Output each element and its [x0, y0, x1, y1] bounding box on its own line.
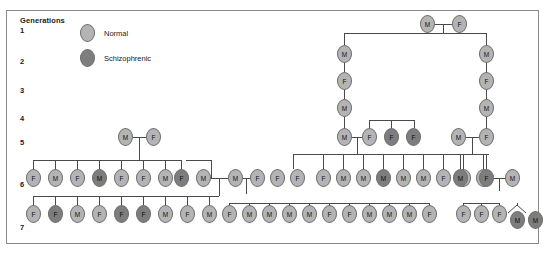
generation-label-7: 7 [20, 223, 24, 232]
person-g6-16[interactable]: M [356, 169, 371, 187]
person-g7-24[interactable]: M [510, 211, 525, 229]
drop-g7-7 [165, 196, 166, 205]
person-g5-8[interactable]: F [479, 128, 494, 146]
person-g6-3[interactable]: F [70, 169, 85, 187]
person-g2-2[interactable]: M [479, 45, 494, 63]
person-g3-2[interactable]: F [479, 72, 494, 90]
person-g3-1[interactable]: F [337, 72, 352, 90]
person-g7-9[interactable]: M [202, 205, 217, 223]
person-g5-1[interactable]: M [337, 128, 352, 146]
person-g5-5[interactable]: F [384, 128, 399, 146]
descent-g6-left-to-g7 [219, 178, 220, 196]
drop-g5-6 [414, 120, 415, 128]
person-g6-25[interactable]: M [505, 169, 520, 187]
person-g6-5[interactable]: F [114, 169, 129, 187]
person-g5-7[interactable]: M [451, 128, 466, 146]
drop-g5-2 [369, 120, 370, 128]
person-g6-13[interactable]: F [290, 169, 305, 187]
drop-g5-5 [391, 120, 392, 128]
person-g7-1[interactable]: F [26, 205, 41, 223]
person-g6-14[interactable]: F [316, 169, 331, 187]
person-g7-5[interactable]: F [114, 205, 129, 223]
person-g7-10[interactable]: F [222, 205, 237, 223]
person-g5-2[interactable]: F [362, 128, 377, 146]
sibship-line-g7-left [33, 196, 219, 197]
person-g6-1[interactable]: F [26, 169, 41, 187]
person-g7-8[interactable]: F [180, 205, 195, 223]
person-g1-1[interactable]: M [420, 15, 435, 33]
descent-g5-right [472, 137, 473, 154]
person-g6-20[interactable]: F [436, 169, 451, 187]
drop-g7-9 [209, 196, 210, 205]
person-g7-12[interactable]: M [262, 205, 277, 223]
person-g7-16[interactable]: F [342, 205, 357, 223]
person-g7-7[interactable]: M [158, 205, 173, 223]
sibship-line-g7-mid2 [389, 203, 429, 204]
person-g6-6[interactable]: F [136, 169, 151, 187]
link-g3-g4-left [344, 90, 345, 99]
person-g4-2[interactable]: M [479, 99, 494, 117]
person-g7-11[interactable]: M [242, 205, 257, 223]
person-g7-19[interactable]: M [402, 205, 417, 223]
person-g7-3[interactable]: M [70, 205, 85, 223]
person-g6-19[interactable]: M [416, 169, 431, 187]
link-g4-g5-right [486, 117, 487, 128]
drop-g6-13 [293, 154, 294, 169]
person-g7-17[interactable]: M [362, 205, 377, 223]
drop-g6-3 [77, 160, 78, 169]
person-g7-21[interactable]: F [456, 205, 471, 223]
person-g7-18[interactable]: M [382, 205, 397, 223]
drop-g6-20 [443, 154, 444, 169]
person-g6-4[interactable]: M [92, 169, 107, 187]
generation-label-2: 2 [20, 57, 24, 66]
person-g7-2[interactable]: F [48, 205, 63, 223]
person-g7-25[interactable]: M [528, 211, 543, 229]
generation-label-3: 3 [20, 86, 24, 95]
person-g5-6[interactable]: F [406, 128, 421, 146]
pedigree-chart-page: Generations 1 2 3 4 5 6 7 Normal Schizop… [0, 0, 547, 255]
drop-g6-21 [463, 154, 464, 169]
person-g5-3[interactable]: M [118, 128, 133, 146]
person-g5-4[interactable]: F [146, 128, 161, 146]
drop-g7-2 [55, 196, 56, 205]
person-g7-23[interactable]: F [492, 205, 507, 223]
drop-g6-2 [55, 160, 56, 169]
drop-g7-3 [77, 196, 78, 205]
person-g6-9[interactable]: M [196, 169, 211, 187]
drop-g6-17 [383, 154, 384, 169]
drop-g6-19 [423, 154, 424, 169]
person-g6-12[interactable]: F [270, 169, 285, 187]
generation-label-6: 6 [20, 180, 24, 189]
drop-g6-24 [486, 154, 487, 169]
person-g6-24[interactable]: F [479, 169, 494, 187]
generation-label-1: 1 [20, 26, 24, 35]
drop-g6-23 [460, 154, 461, 169]
person-g6-15[interactable]: M [336, 169, 351, 187]
descent-g5-left [357, 137, 358, 154]
drop-g6-4 [99, 160, 100, 169]
person-g6-7[interactable]: M [158, 169, 173, 187]
drop-g7-8 [187, 196, 188, 205]
person-g6-11[interactable]: F [250, 169, 265, 187]
drop-g7-4 [99, 196, 100, 205]
drop-g7-1 [33, 196, 34, 205]
person-g6-8[interactable]: F [174, 169, 189, 187]
drop-g2-1 [344, 33, 345, 45]
person-g7-6[interactable]: F [136, 205, 151, 223]
person-g6-10[interactable]: M [228, 169, 243, 187]
person-g7-13[interactable]: M [282, 205, 297, 223]
person-g6-23[interactable]: M [453, 169, 468, 187]
person-g6-17[interactable]: M [376, 169, 391, 187]
person-g2-1[interactable]: M [337, 45, 352, 63]
person-g4-1[interactable]: M [337, 99, 352, 117]
person-g7-4[interactable]: F [92, 205, 107, 223]
person-g7-15[interactable]: F [322, 205, 337, 223]
descent-g5-farleft [139, 137, 140, 160]
person-g6-18[interactable]: M [396, 169, 411, 187]
person-g7-14[interactable]: M [302, 205, 317, 223]
person-g7-20[interactable]: F [422, 205, 437, 223]
person-g1-2[interactable]: F [452, 15, 467, 33]
person-g7-22[interactable]: F [474, 205, 489, 223]
generation-label-4: 4 [20, 114, 24, 123]
person-g6-2[interactable]: M [48, 169, 63, 187]
